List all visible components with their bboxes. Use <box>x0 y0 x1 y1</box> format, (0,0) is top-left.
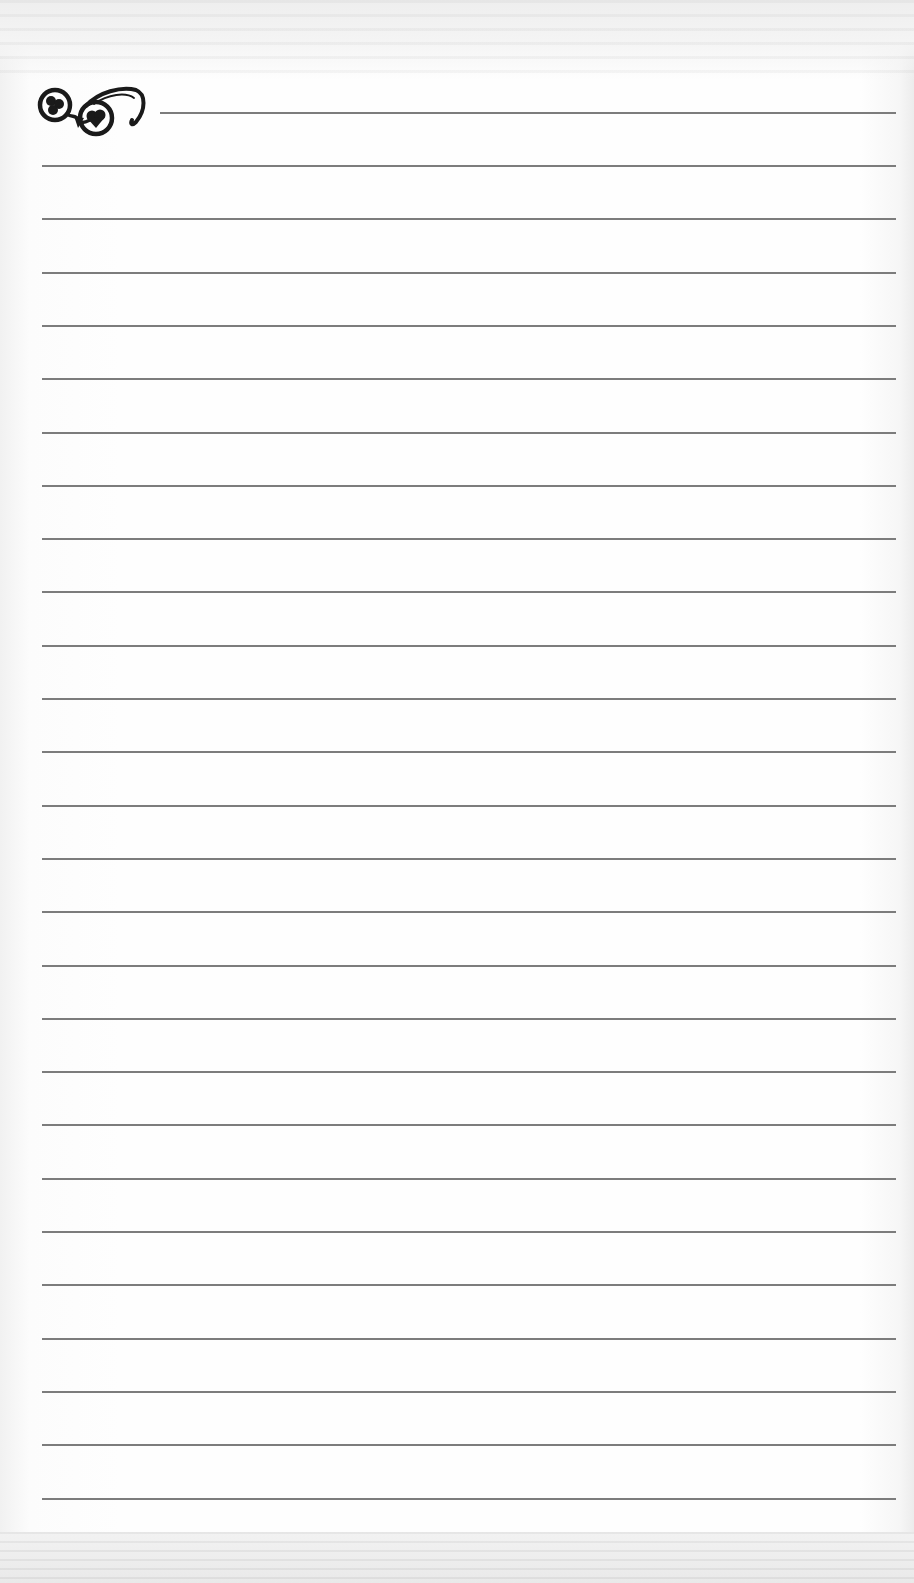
rule-line <box>42 272 896 274</box>
rule-line <box>42 538 896 540</box>
rule-line <box>42 1231 896 1233</box>
rule-line <box>42 218 896 220</box>
rule-line <box>42 378 896 380</box>
rule-line <box>42 1391 896 1393</box>
rule-line <box>42 858 896 860</box>
rule-line <box>42 698 896 700</box>
rule-line <box>42 432 896 434</box>
rule-line <box>42 1178 896 1180</box>
rule-line <box>42 645 896 647</box>
rule-line <box>42 1124 896 1126</box>
rule-line <box>42 911 896 913</box>
rule-line <box>42 165 896 167</box>
rule-line <box>42 1338 896 1340</box>
rule-line <box>42 1018 896 1020</box>
paper-bleed-through-bottom <box>0 1532 914 1583</box>
rule-line <box>42 485 896 487</box>
rule-line <box>42 751 896 753</box>
rule-line <box>42 1284 896 1286</box>
notebook-page <box>0 0 914 1583</box>
header-rule-line <box>160 112 896 114</box>
rule-line <box>42 1444 896 1446</box>
rule-line <box>42 325 896 327</box>
flourish-scroll-icon <box>34 82 150 140</box>
rule-line <box>42 805 896 807</box>
paper-bleed-through-top <box>0 0 914 80</box>
rule-line <box>42 965 896 967</box>
rule-line <box>42 1071 896 1073</box>
rule-line <box>42 1498 896 1500</box>
rule-line <box>42 591 896 593</box>
